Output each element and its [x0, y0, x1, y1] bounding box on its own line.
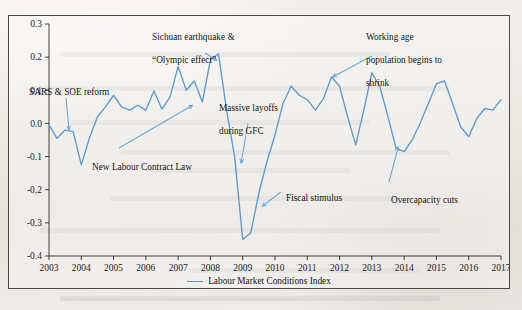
- svg-text:2014: 2014: [395, 263, 414, 273]
- annotation-layoffs: Massive layoffs during GFC: [219, 92, 278, 138]
- svg-text:2007: 2007: [169, 263, 188, 273]
- svg-text:0.2: 0.2: [30, 52, 42, 62]
- svg-text:-0.1: -0.1: [27, 152, 42, 162]
- chart-frame: 0.30.20.10.0-0.1-0.2-0.3-0.4 20032004200…: [8, 15, 510, 289]
- annotation-sars-text: SARS & SOE reform: [29, 87, 109, 97]
- svg-text:2012: 2012: [330, 263, 349, 273]
- svg-text:-0.4: -0.4: [27, 251, 42, 261]
- annotation-fiscal-stimulus: Fiscal stimulus: [286, 182, 342, 205]
- svg-text:2015: 2015: [427, 263, 446, 273]
- x-axis-ticks: 2003200420052006200720082009201020112012…: [40, 256, 510, 273]
- annotation-overcapacity: Overcapacity cuts: [391, 184, 458, 207]
- svg-text:0.3: 0.3: [30, 19, 42, 29]
- annotation-working-age-line3: shrink: [366, 78, 389, 88]
- svg-text:2008: 2008: [201, 263, 220, 273]
- svg-text:2017: 2017: [492, 263, 510, 273]
- svg-text:0.0: 0.0: [30, 119, 42, 129]
- annotation-working-age: Working age population begins to shrink: [366, 21, 442, 89]
- svg-text:2005: 2005: [104, 263, 123, 273]
- svg-text:2003: 2003: [40, 263, 59, 273]
- y-axis-ticks: 0.30.20.10.0-0.1-0.2-0.3-0.4: [27, 19, 49, 261]
- annotation-sars: SARS & SOE reform: [29, 76, 109, 99]
- annotation-layoffs-line1: Massive layoffs: [219, 103, 278, 113]
- annotation-labour-law-text: New Labour Contract Law: [92, 162, 192, 172]
- svg-text:2009: 2009: [233, 263, 252, 273]
- svg-text:2016: 2016: [459, 263, 478, 273]
- legend-color-swatch: [187, 281, 203, 282]
- annotation-labour-law: New Labour Contract Law: [92, 151, 192, 174]
- annotation-working-age-line1: Working age: [366, 32, 414, 42]
- svg-text:2011: 2011: [298, 263, 317, 273]
- svg-text:2010: 2010: [266, 263, 285, 273]
- annotation-fiscal-stimulus-text: Fiscal stimulus: [286, 193, 342, 203]
- annotation-sichuan-line1: Sichuan earthquake &: [152, 32, 235, 42]
- svg-text:2013: 2013: [362, 263, 381, 273]
- svg-text:2006: 2006: [136, 263, 155, 273]
- annotation-sichuan-line2: “Olympic effect”: [152, 55, 216, 65]
- svg-text:2004: 2004: [72, 263, 91, 273]
- legend-label: Labour Market Conditions Index: [208, 276, 331, 286]
- annotation-layoffs-line2: during GFC: [219, 126, 264, 136]
- svg-text:-0.2: -0.2: [27, 185, 42, 195]
- annotation-working-age-line2: population begins to: [366, 55, 442, 65]
- annotation-overcapacity-text: Overcapacity cuts: [391, 195, 458, 205]
- chart-legend: Labour Market Conditions Index: [9, 276, 509, 286]
- svg-text:-0.3: -0.3: [27, 218, 42, 228]
- annotation-sichuan: Sichuan earthquake & “Olympic effect”: [152, 21, 235, 67]
